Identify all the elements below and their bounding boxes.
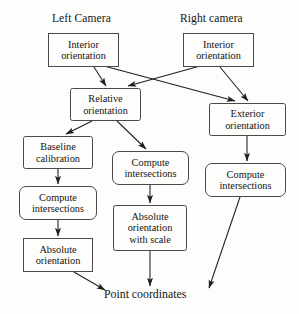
node-baseline-calibration: Baseline calibration (23, 136, 93, 169)
node-exterior-orientation: Exterior orientation (209, 103, 286, 136)
node-label: Compute intersections (219, 169, 271, 192)
terminal-point-coordinates: Point coordinates (104, 288, 186, 301)
node-label: Absolute orientation (36, 244, 81, 267)
node-label: Compute intersections (124, 157, 176, 180)
edge-relative-to-middle-compute (117, 121, 146, 149)
node-relative-orientation: Relative orientation (70, 88, 141, 121)
node-label: Interior orientation (196, 39, 241, 62)
node-label: Interior orientation (61, 39, 106, 62)
edge-right-interior-to-exterior (220, 67, 248, 101)
column-title-right-camera: Right camera (180, 12, 243, 25)
node-left-compute-intersections: Compute intersections (19, 186, 97, 220)
node-absolute-orientation-scale: Absolute orientation with scale (113, 205, 187, 251)
edge-right-compute-to-point (209, 197, 240, 288)
node-right-interior-orientation: Interior orientation (183, 33, 254, 67)
edge-absolute-to-point (74, 272, 105, 290)
node-right-compute-intersections: Compute intersections (205, 163, 286, 197)
edge-relative-to-baseline (66, 121, 92, 134)
node-label: Compute intersections (32, 192, 84, 215)
node-left-interior-orientation: Interior orientation (48, 33, 119, 67)
node-label: Absolute orientation with scale (128, 211, 173, 245)
node-label: Relative orientation (83, 93, 128, 116)
edge-right-interior-to-relative (128, 66, 200, 86)
node-label: Exterior orientation (225, 108, 270, 131)
node-label: Baseline calibration (36, 141, 80, 164)
node-middle-compute-intersections: Compute intersections (112, 151, 189, 185)
column-title-left-camera: Left Camera (52, 12, 111, 25)
diagram-canvas: Left Camera Right camera Interior orient… (0, 0, 299, 314)
edge-left-interior-to-relative (94, 67, 106, 86)
node-absolute-orientation: Absolute orientation (23, 238, 93, 272)
